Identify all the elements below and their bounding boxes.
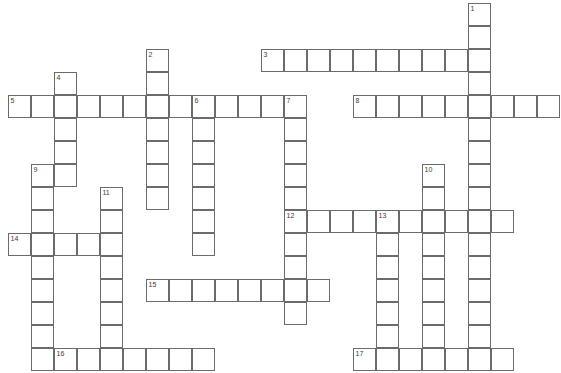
crossword-cell[interactable] xyxy=(123,95,146,118)
crossword-cell[interactable] xyxy=(330,210,353,233)
crossword-cell-start-7[interactable]: 7 xyxy=(284,95,307,118)
crossword-cell[interactable] xyxy=(422,256,445,279)
crossword-cell[interactable] xyxy=(491,348,514,371)
crossword-cell[interactable] xyxy=(146,141,169,164)
crossword-cell-start-8[interactable]: 8 xyxy=(353,95,376,118)
crossword-cell[interactable] xyxy=(284,49,307,72)
crossword-cell[interactable] xyxy=(376,256,399,279)
crossword-cell[interactable] xyxy=(169,95,192,118)
crossword-cell-start-10[interactable]: 10 xyxy=(422,164,445,187)
crossword-cell[interactable] xyxy=(77,95,100,118)
crossword-cell[interactable] xyxy=(376,49,399,72)
crossword-cell[interactable] xyxy=(146,187,169,210)
crossword-cell[interactable] xyxy=(468,95,491,118)
crossword-cell-start-6[interactable]: 6 xyxy=(192,95,215,118)
crossword-cell[interactable] xyxy=(100,279,123,302)
crossword-cell[interactable] xyxy=(123,348,146,371)
crossword-cell-start-11[interactable]: 11 xyxy=(100,187,123,210)
crossword-cell[interactable] xyxy=(169,279,192,302)
crossword-cell[interactable] xyxy=(54,118,77,141)
crossword-cell[interactable] xyxy=(468,256,491,279)
crossword-cell-start-3[interactable]: 3 xyxy=(261,49,284,72)
crossword-cell[interactable] xyxy=(54,164,77,187)
crossword-cell[interactable] xyxy=(215,279,238,302)
crossword-cell-start-2[interactable]: 2 xyxy=(146,49,169,72)
crossword-cell[interactable] xyxy=(422,302,445,325)
crossword-cell[interactable] xyxy=(422,325,445,348)
crossword-cell[interactable] xyxy=(31,279,54,302)
crossword-cell-start-12[interactable]: 12 xyxy=(284,210,307,233)
crossword-cell[interactable] xyxy=(284,256,307,279)
crossword-cell[interactable] xyxy=(445,348,468,371)
crossword-cell[interactable] xyxy=(537,95,560,118)
crossword-cell[interactable] xyxy=(31,348,54,371)
crossword-cell[interactable] xyxy=(54,233,77,256)
crossword-cell[interactable] xyxy=(422,49,445,72)
crossword-cell-start-16[interactable]: 16 xyxy=(54,348,77,371)
crossword-cell[interactable] xyxy=(468,325,491,348)
crossword-cell[interactable] xyxy=(192,279,215,302)
crossword-cell[interactable] xyxy=(261,95,284,118)
crossword-cell-start-9[interactable]: 9 xyxy=(31,164,54,187)
crossword-cell[interactable] xyxy=(192,233,215,256)
crossword-cell-start-14[interactable]: 14 xyxy=(8,233,31,256)
crossword-cell[interactable] xyxy=(146,348,169,371)
crossword-cell[interactable] xyxy=(100,256,123,279)
crossword-cell[interactable] xyxy=(376,348,399,371)
crossword-cell[interactable] xyxy=(100,325,123,348)
crossword-cell[interactable] xyxy=(192,164,215,187)
crossword-cell[interactable] xyxy=(284,118,307,141)
crossword-cell[interactable] xyxy=(307,210,330,233)
crossword-cell-start-5[interactable]: 5 xyxy=(8,95,31,118)
crossword-cell[interactable] xyxy=(376,302,399,325)
crossword-cell[interactable] xyxy=(399,49,422,72)
crossword-cell[interactable] xyxy=(192,348,215,371)
crossword-cell[interactable] xyxy=(284,279,307,302)
crossword-cell[interactable] xyxy=(445,210,468,233)
crossword-cell[interactable] xyxy=(31,302,54,325)
crossword-cell[interactable] xyxy=(422,95,445,118)
crossword-cell[interactable] xyxy=(399,210,422,233)
crossword-cell[interactable] xyxy=(192,118,215,141)
crossword-cell[interactable] xyxy=(77,348,100,371)
crossword-cell[interactable] xyxy=(100,210,123,233)
crossword-cell[interactable] xyxy=(31,187,54,210)
crossword-cell[interactable] xyxy=(100,348,123,371)
crossword-cell[interactable] xyxy=(468,141,491,164)
crossword-cell[interactable] xyxy=(31,325,54,348)
crossword-cell[interactable] xyxy=(468,49,491,72)
crossword-cell[interactable] xyxy=(376,95,399,118)
crossword-cell[interactable] xyxy=(215,95,238,118)
crossword-cell[interactable] xyxy=(146,72,169,95)
crossword-cell[interactable] xyxy=(238,95,261,118)
crossword-cell[interactable] xyxy=(192,210,215,233)
crossword-cell[interactable] xyxy=(307,279,330,302)
crossword-cell[interactable] xyxy=(468,348,491,371)
crossword-cell[interactable] xyxy=(169,348,192,371)
crossword-cell[interactable] xyxy=(238,279,261,302)
crossword-cell-start-17[interactable]: 17 xyxy=(353,348,376,371)
crossword-cell[interactable] xyxy=(284,141,307,164)
crossword-cell[interactable] xyxy=(376,325,399,348)
crossword-cell[interactable] xyxy=(31,233,54,256)
crossword-cell[interactable] xyxy=(491,95,514,118)
crossword-cell[interactable] xyxy=(468,164,491,187)
crossword-cell[interactable] xyxy=(468,210,491,233)
crossword-cell[interactable] xyxy=(422,279,445,302)
crossword-cell[interactable] xyxy=(284,233,307,256)
crossword-cell[interactable] xyxy=(192,187,215,210)
crossword-grid[interactable]: 1234567891011121314151617 xyxy=(0,0,561,373)
crossword-cell[interactable] xyxy=(100,302,123,325)
crossword-cell[interactable] xyxy=(422,187,445,210)
crossword-cell[interactable] xyxy=(330,49,353,72)
crossword-cell[interactable] xyxy=(100,233,123,256)
crossword-cell[interactable] xyxy=(376,279,399,302)
crossword-cell[interactable] xyxy=(422,210,445,233)
crossword-cell[interactable] xyxy=(284,164,307,187)
crossword-cell[interactable] xyxy=(31,210,54,233)
crossword-cell[interactable] xyxy=(146,118,169,141)
crossword-cell[interactable] xyxy=(422,233,445,256)
crossword-cell[interactable] xyxy=(468,118,491,141)
crossword-cell[interactable] xyxy=(445,49,468,72)
crossword-cell[interactable] xyxy=(284,302,307,325)
